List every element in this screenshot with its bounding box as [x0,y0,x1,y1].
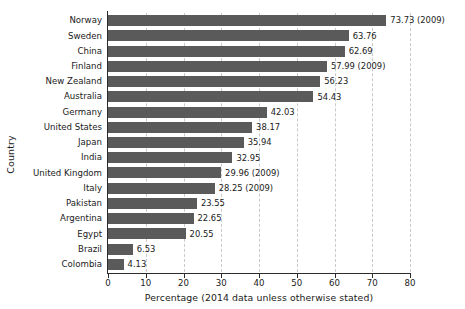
bar-row[interactable]: 57.99 (2009) [108,59,410,74]
bar[interactable] [108,107,267,118]
x-axis-tick-label: 70 [367,279,378,288]
bar-value-label: 29.96 (2009) [221,169,280,177]
bar-row[interactable]: 54.43 [108,89,410,104]
bar-value-label: 56.23 [320,77,348,85]
x-axis-ticks: 01020304050607080 [108,274,410,290]
bar-row[interactable]: 32.95 [108,150,410,165]
gridline [410,13,411,272]
bar[interactable] [108,15,386,26]
bar-row[interactable]: 35.94 [108,135,410,150]
bar-chart-figure: Country NorwaySwedenChinaFinlandNew Zeal… [0,0,465,309]
bar-value-label: 73.73 (2009) [386,16,445,24]
bar[interactable] [108,167,221,178]
y-axis-category-label: United Kingdom [14,165,106,180]
bar[interactable] [108,259,124,270]
bar-value-label: 6.53 [133,245,156,253]
bar[interactable] [108,46,345,57]
bar-row[interactable]: 73.73 (2009) [108,13,410,28]
bar-value-label: 63.76 [349,32,377,40]
bar-value-label: 20.55 [186,230,214,238]
y-axis-category-label: Colombia [14,257,106,272]
y-axis-category-label: Japan [14,135,106,150]
y-axis-category-label: United States [14,120,106,135]
bar[interactable] [108,30,349,41]
bar-row[interactable]: 23.55 [108,196,410,211]
bar-row[interactable]: 62.69 [108,43,410,58]
bar[interactable] [108,137,244,148]
y-axis-category-label: Brazil [14,242,106,257]
x-axis-tick-label: 40 [254,279,265,288]
y-axis-line [107,11,108,274]
bar-series: 73.73 (2009)63.7662.6957.99 (2009)56.235… [108,13,410,272]
y-axis-category-label: Australia [14,89,106,104]
x-axis-tick-label: 80 [405,279,416,288]
y-axis-category-label: Argentina [14,211,106,226]
bar-value-label: 28.25 (2009) [215,184,274,192]
bar-value-label: 4.13 [124,260,147,268]
y-axis-category-label: Finland [14,59,106,74]
bar-value-label: 32.95 [232,154,260,162]
x-axis-tick-label: 60 [329,279,340,288]
y-axis-category-label: Germany [14,104,106,119]
y-axis-category-labels: NorwaySwedenChinaFinlandNew ZealandAustr… [14,13,106,272]
plot-area: 73.73 (2009)63.7662.6957.99 (2009)56.235… [108,13,410,272]
bar-value-label: 57.99 (2009) [327,62,386,70]
y-axis-category-label: Norway [14,13,106,28]
y-axis-category-label: Sweden [14,28,106,43]
bar-row[interactable]: 22.65 [108,211,410,226]
bar[interactable] [108,183,215,194]
y-axis-category-label: Italy [14,181,106,196]
bar[interactable] [108,122,252,133]
x-axis-title: Percentage (2014 data unless otherwise s… [108,292,410,303]
bar-value-label: 42.03 [267,108,295,116]
bar[interactable] [108,152,232,163]
bar-value-label: 38.17 [252,123,280,131]
bar[interactable] [108,76,320,87]
y-axis-category-label: India [14,150,106,165]
bar-row[interactable]: 63.76 [108,28,410,43]
bar-row[interactable]: 56.23 [108,74,410,89]
x-axis-tick-label: 10 [140,279,151,288]
bar[interactable] [108,244,133,255]
y-axis-category-label: Pakistan [14,196,106,211]
bar-value-label: 54.43 [313,93,341,101]
bar-value-label: 22.65 [194,214,222,222]
bar-row[interactable]: 4.13 [108,257,410,272]
y-axis-category-label: New Zealand [14,74,106,89]
bar-row[interactable]: 28.25 (2009) [108,181,410,196]
y-axis-category-label: Egypt [14,226,106,241]
bar[interactable] [108,198,197,209]
bar[interactable] [108,228,186,239]
bar-value-label: 62.69 [345,47,373,55]
bar[interactable] [108,91,313,102]
bar[interactable] [108,213,194,224]
x-axis-tick-label: 20 [178,279,189,288]
x-axis-tick-label: 30 [216,279,227,288]
bar-row[interactable]: 29.96 (2009) [108,165,410,180]
bar[interactable] [108,61,327,72]
bar-value-label: 35.94 [244,138,272,146]
x-axis-tick-label: 0 [105,279,110,288]
bar-row[interactable]: 38.17 [108,120,410,135]
bar-row[interactable]: 42.03 [108,104,410,119]
x-axis-tick-label: 50 [291,279,302,288]
y-axis-category-label: China [14,43,106,58]
bar-row[interactable]: 20.55 [108,226,410,241]
bar-row[interactable]: 6.53 [108,242,410,257]
bar-value-label: 23.55 [197,199,225,207]
